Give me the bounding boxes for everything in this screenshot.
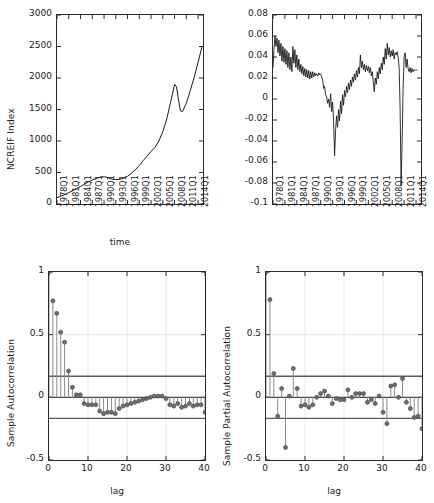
x-tick-label: 30 bbox=[368, 463, 396, 473]
x-tick-label: 1999Q1 bbox=[142, 175, 151, 207]
x-tick-label: 0 bbox=[251, 463, 279, 473]
stem-marker bbox=[354, 392, 358, 396]
y-tick-label: 1500 bbox=[4, 103, 52, 113]
x-tick-label: 1993Q1 bbox=[119, 175, 128, 207]
x-tick-label: 2005Q1 bbox=[166, 175, 175, 207]
stem-marker bbox=[98, 409, 102, 413]
x-tick-label: 2014Q1 bbox=[201, 175, 210, 207]
y-tick-label: 0 bbox=[4, 197, 52, 207]
x-tick-label: 10 bbox=[73, 463, 101, 473]
stem-marker bbox=[299, 404, 303, 408]
stem-marker bbox=[117, 407, 121, 411]
stem-marker bbox=[199, 403, 203, 407]
x-tick-label: 1993Q1 bbox=[336, 175, 345, 207]
stem-marker bbox=[326, 394, 330, 398]
x-tick-label: 0 bbox=[34, 463, 62, 473]
y-tick-label: 0.04 bbox=[220, 50, 268, 60]
panel-index-xlabel: time bbox=[90, 237, 150, 247]
y-tick-label: -0.5 bbox=[4, 453, 44, 463]
panel-sample-autocorrelation: Sample Autocorrelation lag -0.500.510102… bbox=[0, 255, 217, 503]
x-tick-label: 10 bbox=[290, 463, 318, 473]
stem-marker bbox=[172, 404, 176, 408]
stem-marker bbox=[86, 403, 90, 407]
x-tick-label: 40 bbox=[407, 463, 434, 473]
stem-marker bbox=[176, 402, 180, 406]
x-tick-label: 1987Q1 bbox=[312, 175, 321, 207]
y-tick-label: 1 bbox=[221, 265, 261, 275]
stem-marker bbox=[404, 400, 408, 404]
x-tick-label: 1978Q1 bbox=[60, 175, 69, 207]
x-tick-label: 2011Q1 bbox=[189, 175, 198, 207]
y-tick-label: 1 bbox=[4, 265, 44, 275]
stem-marker bbox=[109, 410, 113, 414]
stem-marker bbox=[377, 394, 381, 398]
stem-marker bbox=[385, 422, 389, 426]
x-tick-label: 2005Q1 bbox=[383, 175, 392, 207]
stem-marker bbox=[168, 403, 172, 407]
x-tick-label: 1978Q1 bbox=[276, 175, 285, 207]
stem-marker bbox=[152, 394, 156, 398]
x-tick-label: 1981Q1 bbox=[288, 175, 297, 207]
stem-marker bbox=[133, 400, 137, 404]
panel-acf-xlabel: lag bbox=[97, 486, 137, 496]
figure-container: NCREIF Index time 0500100015002000250030… bbox=[0, 0, 434, 503]
stem-marker bbox=[381, 410, 385, 414]
stem-marker bbox=[389, 384, 393, 388]
stem-marker bbox=[137, 399, 141, 403]
x-tick-label: 2008Q1 bbox=[395, 175, 404, 207]
stem-marker bbox=[266, 272, 268, 274]
ncreif-returns-line bbox=[273, 36, 417, 186]
y-tick-label: -0.02 bbox=[220, 113, 268, 123]
panel-ncreif-returns: -0.1-0.08-0.06-0.04-0.0200.020.040.060.0… bbox=[217, 0, 434, 251]
stem-marker bbox=[184, 404, 188, 408]
x-tick-label: 1996Q1 bbox=[348, 175, 357, 207]
x-tick-label: 20 bbox=[112, 463, 140, 473]
panel-acf-plot-area bbox=[48, 271, 206, 461]
y-tick-label: 0.5 bbox=[221, 328, 261, 338]
stem-marker bbox=[70, 385, 74, 389]
x-tick-label: 1984Q1 bbox=[84, 175, 93, 207]
panel-pacf-xlabel: lag bbox=[314, 486, 354, 496]
x-tick-label: 1987Q1 bbox=[95, 175, 104, 207]
stem-marker bbox=[203, 410, 205, 414]
stem-marker bbox=[145, 397, 149, 401]
y-tick-label: -0.08 bbox=[220, 176, 268, 186]
x-tick-label: 2011Q1 bbox=[407, 175, 416, 207]
y-tick-label: 2500 bbox=[4, 40, 52, 50]
stem-marker bbox=[191, 404, 195, 408]
stem-marker bbox=[287, 394, 291, 398]
stem-marker bbox=[180, 405, 184, 409]
y-tick-label: 0 bbox=[220, 92, 268, 102]
stem-marker bbox=[311, 403, 315, 407]
x-tick-label: 1984Q1 bbox=[300, 175, 309, 207]
y-tick-label: -0.06 bbox=[220, 155, 268, 165]
panel-pacf-plot-area bbox=[265, 271, 423, 461]
stem-marker bbox=[397, 395, 401, 399]
stem-marker bbox=[334, 397, 338, 401]
stem-marker bbox=[284, 445, 288, 449]
stem-marker bbox=[338, 398, 342, 402]
y-tick-label: 2000 bbox=[4, 71, 52, 81]
panel-ncreif-index: NCREIF Index time 0500100015002000250030… bbox=[0, 0, 217, 251]
x-tick-label: 2002Q1 bbox=[154, 175, 163, 207]
y-tick-label: 0.08 bbox=[220, 8, 268, 18]
stem-marker bbox=[393, 383, 397, 387]
stem-marker bbox=[148, 395, 152, 399]
panel-pacf-ylabel: Sample Partial Autocorrelation bbox=[222, 271, 232, 466]
stem-marker bbox=[90, 403, 94, 407]
stem-marker bbox=[307, 405, 311, 409]
y-tick-label: -0.5 bbox=[221, 453, 261, 463]
x-tick-label: 1990Q1 bbox=[324, 175, 333, 207]
stem-marker bbox=[291, 367, 295, 371]
stem-marker bbox=[55, 311, 59, 315]
stem-marker bbox=[280, 387, 284, 391]
x-tick-label: 30 bbox=[151, 463, 179, 473]
y-tick-label: 0 bbox=[4, 390, 44, 400]
stem-marker bbox=[141, 398, 145, 402]
stem-marker bbox=[373, 402, 377, 406]
stem-marker bbox=[82, 402, 86, 406]
stem-marker bbox=[125, 403, 129, 407]
stem-marker bbox=[323, 389, 327, 393]
x-tick-label: 1990Q1 bbox=[107, 175, 116, 207]
stem-marker bbox=[295, 387, 299, 391]
